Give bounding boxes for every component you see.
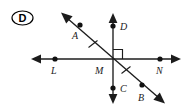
arrow-down-icon xyxy=(109,94,118,104)
choice-badge: D xyxy=(12,11,33,25)
point-dot-D xyxy=(110,23,115,28)
point-label-B: B xyxy=(138,92,144,103)
figure-canvas: A D L M N C B D xyxy=(0,0,193,109)
point-label-L: L xyxy=(50,65,57,76)
geometry-diagram: A D L M N C B D xyxy=(0,0,193,109)
point-label-C: C xyxy=(120,83,127,94)
point-dot-N xyxy=(157,56,162,61)
point-label-N: N xyxy=(155,65,164,76)
point-dot-C xyxy=(110,85,115,90)
right-angle-icon xyxy=(113,50,123,60)
point-label-A: A xyxy=(71,30,79,41)
point-label-D: D xyxy=(119,21,128,32)
point-dot-L xyxy=(52,56,57,61)
point-dot-A xyxy=(77,22,82,27)
point-label-M: M xyxy=(94,65,104,76)
arrow-up-icon xyxy=(109,13,118,23)
choice-badge-label: D xyxy=(19,12,27,24)
arrow-right-icon xyxy=(171,55,181,64)
arrow-left-icon xyxy=(31,55,41,64)
point-dot-B xyxy=(139,82,144,87)
